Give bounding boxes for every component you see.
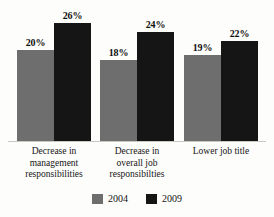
chart-legend: 2004 2009 bbox=[0, 193, 274, 204]
category-label-0: Decrease in management responsibilities bbox=[6, 146, 102, 181]
bar-rect bbox=[17, 50, 54, 142]
category-label-1: Decrease in overall job responsibilties bbox=[89, 146, 185, 181]
legend-label: 2004 bbox=[108, 193, 128, 204]
bar-rect bbox=[221, 41, 258, 142]
x-axis-category-labels: Decrease in management responsibilities … bbox=[0, 146, 274, 190]
x-axis-baseline bbox=[8, 141, 266, 142]
legend-label: 2009 bbox=[162, 193, 182, 204]
category-label-line: Decrease in bbox=[6, 146, 102, 158]
category-label-line: responsibilities bbox=[6, 169, 102, 181]
bar-value-label: 24% bbox=[137, 19, 174, 30]
bar-group-0: 20% 26% bbox=[17, 0, 91, 142]
bar-rect bbox=[137, 32, 174, 142]
legend-item-2004: 2004 bbox=[92, 193, 128, 204]
category-label-line: Decrease in bbox=[89, 146, 185, 158]
category-label-line: responsibilties bbox=[89, 169, 185, 181]
category-label-line: management bbox=[6, 158, 102, 170]
bar-rect bbox=[184, 55, 221, 142]
bar-group-1: 18% 24% bbox=[100, 0, 174, 142]
bar-value-label: 18% bbox=[100, 47, 137, 58]
category-label-line: overall job bbox=[89, 158, 185, 170]
category-label-2: Lower job title bbox=[173, 146, 269, 158]
legend-item-2009: 2009 bbox=[146, 193, 182, 204]
bar-value-label: 20% bbox=[17, 37, 54, 48]
bar-value-label: 19% bbox=[184, 42, 221, 53]
bar-rect bbox=[54, 23, 91, 142]
bar-value-label: 26% bbox=[54, 10, 91, 21]
bar-rect bbox=[100, 60, 137, 142]
bar-value-label: 22% bbox=[221, 28, 258, 39]
legend-swatch-icon bbox=[92, 194, 103, 204]
plot-area: 20% 26% 18% 24% 19% bbox=[0, 0, 274, 142]
legend-swatch-icon bbox=[146, 194, 157, 204]
bar-chart: 20% 26% 18% 24% 19% bbox=[0, 0, 274, 217]
bar-group-2: 19% 22% bbox=[184, 0, 258, 142]
category-label-line: Lower job title bbox=[173, 146, 269, 158]
